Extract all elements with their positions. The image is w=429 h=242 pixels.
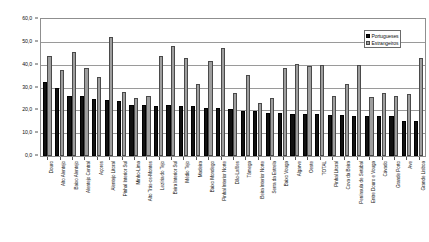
bar-portugueses bbox=[55, 88, 59, 157]
bar-portugueses bbox=[80, 96, 84, 157]
x-tick-mark bbox=[109, 157, 110, 160]
x-category-label: Grande Porto bbox=[396, 161, 401, 188]
bar-group bbox=[276, 19, 288, 156]
x-category-label: Entre Douro e Vouga bbox=[371, 161, 376, 203]
x-tick-mark bbox=[208, 157, 209, 160]
x-tick-mark bbox=[295, 157, 296, 160]
x-category-label: Ave bbox=[408, 161, 413, 169]
bar-portugueses bbox=[303, 114, 307, 156]
x-tick-mark bbox=[419, 157, 420, 160]
bar-estrangeiros bbox=[258, 103, 262, 156]
x-category-label: TOTAL bbox=[322, 161, 327, 175]
x-category-label: Cova da Beira bbox=[346, 161, 351, 189]
bar-portugueses bbox=[278, 113, 282, 156]
x-tick-mark bbox=[258, 157, 259, 160]
x-tick-mark bbox=[357, 157, 358, 160]
bar-portugueses bbox=[266, 113, 270, 156]
bar-group bbox=[66, 19, 78, 156]
legend-label: Estrangeiros bbox=[372, 40, 399, 46]
y-tick-mark bbox=[35, 132, 38, 133]
y-axis: 0,010,020,030,040,050,060,0 bbox=[0, 18, 38, 157]
bar-group bbox=[152, 19, 164, 156]
bar-estrangeiros bbox=[84, 68, 88, 156]
bar-portugueses bbox=[105, 100, 109, 156]
y-tick-mark bbox=[35, 40, 38, 41]
bar-portugueses bbox=[241, 111, 245, 156]
bar-estrangeiros bbox=[97, 77, 101, 156]
bar-estrangeiros bbox=[394, 96, 398, 157]
bar-estrangeiros bbox=[295, 64, 299, 156]
bar-portugueses bbox=[377, 116, 381, 156]
x-category-label: Alentejo Litoral bbox=[111, 161, 116, 191]
y-tick-mark bbox=[35, 155, 38, 156]
x-category-label: Pinhal Litoral bbox=[334, 161, 339, 187]
bar-group bbox=[41, 19, 53, 156]
bar-group bbox=[91, 19, 103, 156]
bar-portugueses bbox=[191, 106, 195, 156]
bar-portugueses bbox=[166, 105, 170, 156]
x-tick-mark bbox=[283, 157, 284, 160]
bar-estrangeiros bbox=[72, 52, 76, 156]
bar-estrangeiros bbox=[109, 37, 113, 156]
x-tick-mark bbox=[122, 157, 123, 160]
bar-portugueses bbox=[352, 116, 356, 156]
bar-estrangeiros bbox=[307, 66, 311, 156]
bar-estrangeiros bbox=[407, 94, 411, 156]
x-category-label: Minho-Lima bbox=[136, 161, 141, 185]
y-tick-label: 50,0 bbox=[22, 38, 32, 44]
bar-portugueses bbox=[129, 105, 133, 156]
bar-estrangeiros bbox=[122, 92, 126, 156]
bar-group bbox=[351, 19, 363, 156]
bar-estrangeiros bbox=[184, 58, 188, 156]
legend-swatch-icon bbox=[366, 41, 370, 45]
bar-portugueses bbox=[117, 101, 121, 156]
x-tick-mark bbox=[344, 157, 345, 160]
x-tick-mark bbox=[84, 157, 85, 160]
y-tick-mark bbox=[35, 63, 38, 64]
x-tick-mark bbox=[233, 157, 234, 160]
bar-group bbox=[252, 19, 264, 156]
y-tick-label: 30,0 bbox=[22, 84, 32, 90]
bar-portugueses bbox=[92, 99, 96, 156]
bar-portugueses bbox=[204, 108, 208, 156]
bar-group bbox=[53, 19, 65, 156]
x-tick-mark bbox=[406, 157, 407, 160]
bar-estrangeiros bbox=[196, 84, 200, 156]
bar-group bbox=[326, 19, 338, 156]
bar-group bbox=[128, 19, 140, 156]
bar-portugueses bbox=[290, 114, 294, 156]
bar-portugueses bbox=[43, 82, 47, 156]
x-tick-mark bbox=[307, 157, 308, 160]
y-tick-label: 0,0 bbox=[25, 152, 32, 158]
bar-estrangeiros bbox=[60, 70, 64, 156]
bar-portugueses bbox=[414, 121, 418, 156]
bar-group bbox=[115, 19, 127, 156]
x-tick-mark bbox=[146, 157, 147, 160]
x-tick-mark bbox=[72, 157, 73, 160]
bar-estrangeiros bbox=[134, 98, 138, 156]
bar-group bbox=[239, 19, 251, 156]
x-category-label: Baixo Alentejo bbox=[74, 161, 79, 189]
bar-group bbox=[413, 19, 425, 156]
x-tick-mark bbox=[134, 157, 135, 160]
bar-portugueses bbox=[228, 109, 232, 156]
legend-swatch-icon bbox=[366, 34, 370, 38]
bar-estrangeiros bbox=[270, 98, 274, 156]
x-category-label: Alto Alentejo bbox=[61, 161, 66, 186]
x-category-label: Beira Interior Sul bbox=[173, 161, 178, 194]
bar-group bbox=[264, 19, 276, 156]
x-category-label: Pinhal Interior Norte bbox=[222, 161, 227, 201]
legend-label: Portugueses bbox=[372, 33, 399, 39]
bar-portugueses bbox=[179, 106, 183, 156]
bar-group bbox=[202, 19, 214, 156]
bar-group bbox=[165, 19, 177, 156]
y-tick-label: 40,0 bbox=[22, 61, 32, 67]
x-tick-mark bbox=[60, 157, 61, 160]
x-tick-mark bbox=[270, 157, 271, 160]
x-tick-mark bbox=[171, 157, 172, 160]
y-tick-mark bbox=[35, 18, 38, 19]
bar-estrangeiros bbox=[357, 65, 361, 156]
bar-estrangeiros bbox=[159, 56, 163, 156]
chart-legend: PortuguesesEstrangeiros bbox=[364, 30, 401, 48]
x-category-label: Oeste bbox=[309, 161, 314, 173]
